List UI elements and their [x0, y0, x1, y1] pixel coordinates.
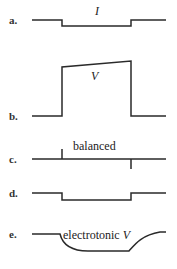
panel-d: d.	[9, 187, 166, 200]
waveform-diagram: a. I b. V c. balanced d. e. electrotonic…	[0, 0, 177, 269]
electrotonic-v: V	[123, 228, 132, 242]
electrotonic-label: electrotonic V	[63, 228, 132, 242]
panel-a: a. I	[9, 4, 166, 26]
panel-b: b. V	[9, 61, 166, 122]
panel-e-label: e.	[9, 228, 17, 240]
panel-b-label: b.	[9, 110, 18, 122]
panel-e: e. electrotonic V	[9, 228, 166, 251]
panel-a-label: a.	[9, 14, 18, 26]
voltage-trace	[32, 61, 166, 116]
balanced-label: balanced	[73, 139, 116, 153]
panel-c-label: c.	[9, 153, 17, 165]
panel-d-label: d.	[9, 187, 18, 199]
current-label: I	[94, 4, 100, 18]
electrotonic-word: electrotonic	[63, 228, 123, 242]
voltage-label: V	[91, 69, 100, 83]
step-trace	[32, 193, 166, 200]
panel-c: c. balanced	[9, 139, 166, 169]
current-step-trace	[32, 20, 166, 26]
